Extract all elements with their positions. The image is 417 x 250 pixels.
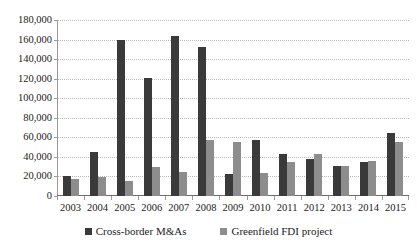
x-axis-tick-mark (138, 196, 165, 200)
x-axis-tick-mark (165, 196, 192, 200)
bar (279, 154, 287, 196)
x-axis-tick-mark (111, 196, 138, 200)
bar (90, 152, 98, 196)
bar-group (219, 20, 246, 196)
bar (198, 47, 206, 196)
bar (117, 40, 125, 196)
bar (233, 142, 241, 196)
x-axis-tick-label: 2005 (111, 201, 138, 217)
x-axis-tick-mark (247, 196, 274, 200)
x-axis-ticks (57, 196, 409, 200)
bar (206, 140, 214, 196)
x-axis-tick-mark (219, 196, 246, 200)
bar (260, 173, 268, 196)
bar (368, 161, 376, 196)
y-axis-tick-label: 120,000 (0, 73, 52, 84)
x-axis-tick-label: 2012 (301, 201, 328, 217)
bar-chart-figure: 020,00040,00060,00080,000100,000120,0001… (0, 0, 417, 250)
x-axis-tick-label: 2014 (355, 201, 382, 217)
x-axis-tick-mark (382, 196, 409, 200)
bar-group (57, 20, 84, 196)
bar (341, 166, 349, 196)
bar-group (84, 20, 111, 196)
x-axis-tick-label: 2010 (247, 201, 274, 217)
bar-group (328, 20, 355, 196)
bar (287, 162, 295, 196)
x-axis-tick-mark (355, 196, 382, 200)
bar (395, 142, 403, 196)
bar-group (192, 20, 219, 196)
y-axis-tick-label: 140,000 (0, 54, 52, 65)
bar (314, 154, 322, 196)
bar-group (301, 20, 328, 196)
legend-entry[interactable]: Greenfield FDI project (220, 225, 332, 237)
x-axis-labels: 2003200420052006200720082009201020112012… (57, 201, 409, 217)
x-axis-tick-label: 2011 (274, 201, 301, 217)
bar (152, 167, 160, 196)
bar (171, 36, 179, 196)
bar (252, 140, 260, 196)
bar-groups (57, 20, 409, 196)
x-axis-tick-label: 2009 (219, 201, 246, 217)
y-axis-tick-label: 180,000 (0, 15, 52, 26)
y-axis-tick-label: 20,000 (0, 171, 52, 182)
bar (71, 179, 79, 196)
y-axis-tick-label: 100,000 (0, 93, 52, 104)
x-axis-tick-label: 2015 (382, 201, 409, 217)
bar (125, 181, 133, 196)
x-axis-tick-label: 2006 (138, 201, 165, 217)
y-axis-labels: 020,00040,00060,00080,000100,000120,0001… (0, 20, 52, 196)
bar (333, 166, 341, 196)
bar-group (274, 20, 301, 196)
legend-entry[interactable]: Cross-border M&As (85, 225, 187, 237)
bar-group (111, 20, 138, 196)
y-axis-tick-label: 60,000 (0, 132, 52, 143)
bar-group (165, 20, 192, 196)
bar (387, 133, 395, 196)
y-axis-tick-label: 40,000 (0, 152, 52, 163)
bar-group (355, 20, 382, 196)
x-axis-tick-label: 2008 (192, 201, 219, 217)
y-axis-tick-label: 80,000 (0, 113, 52, 124)
y-axis-tick-label: 0 (0, 191, 52, 202)
bar (98, 177, 106, 196)
x-axis-tick-mark (57, 196, 84, 200)
bar (225, 174, 233, 196)
x-axis-tick-label: 2003 (57, 201, 84, 217)
bar (306, 159, 314, 196)
legend-swatch-icon (85, 228, 92, 235)
x-axis-tick-mark (328, 196, 355, 200)
x-axis-tick-label: 2013 (328, 201, 355, 217)
bar (63, 176, 71, 196)
chart-legend: Cross-border M&AsGreenfield FDI project (0, 225, 417, 237)
y-axis-tick-label: 160,000 (0, 34, 52, 45)
bar (144, 78, 152, 196)
x-axis-tick-mark (84, 196, 111, 200)
bar (360, 162, 368, 196)
bar-group (382, 20, 409, 196)
x-axis-tick-label: 2007 (165, 201, 192, 217)
bar-group (138, 20, 165, 196)
legend-label: Cross-border M&As (96, 225, 187, 237)
legend-label: Greenfield FDI project (231, 225, 332, 237)
x-axis-tick-label: 2004 (84, 201, 111, 217)
x-axis-tick-mark (301, 196, 328, 200)
bar-group (247, 20, 274, 196)
bar (179, 172, 187, 196)
x-axis-tick-mark (274, 196, 301, 200)
legend-swatch-icon (220, 228, 227, 235)
x-axis-tick-mark (192, 196, 219, 200)
